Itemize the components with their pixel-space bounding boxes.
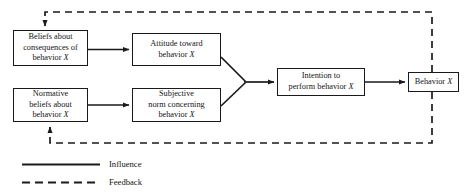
node-attitude-toward-behavior[interactable]: Attitude toward behavior X <box>132 33 221 66</box>
node-line-1: Attitude toward <box>150 39 202 50</box>
variable-x: X <box>447 77 452 86</box>
arrow-subjective-to-junction <box>221 83 246 107</box>
node-intention-to-perform[interactable]: Intention to perform behavior X <box>277 68 365 96</box>
node-line-1: Subjective <box>148 89 204 100</box>
node-line-2: behavior X <box>150 50 202 61</box>
node-line-2: norm concerning <box>148 100 204 111</box>
legend-item-feedback: Feedback <box>22 177 142 187</box>
legend-item-influence: Influence <box>22 159 141 169</box>
node-behavior[interactable]: Behavior X <box>408 72 459 92</box>
legend-label-influence: Influence <box>109 159 141 169</box>
feedback-top-path <box>45 12 432 72</box>
node-line-3: behavior X <box>148 110 204 121</box>
node-beliefs-about-consequences[interactable]: Beliefs about consequences of behavior X <box>13 30 88 66</box>
node-line-1: Beliefs about <box>23 32 78 43</box>
node-line-2: perform behavior X <box>289 82 354 93</box>
variable-x: X <box>190 110 195 119</box>
node-line-3: behavior X <box>29 110 72 121</box>
node-subjective-norm[interactable]: Subjective norm concerning behavior X <box>132 88 221 122</box>
variable-x: X <box>64 53 69 62</box>
node-line-2: beliefs about <box>29 100 72 111</box>
legend-solid-line-swatch <box>22 161 100 168</box>
node-line-2: consequences of <box>23 43 78 54</box>
diagram-canvas: Beliefs about consequences of behavior X… <box>0 0 469 195</box>
node-normative-beliefs[interactable]: Normative beliefs about behavior X <box>13 88 88 122</box>
variable-x: X <box>190 50 195 59</box>
feedback-bottom-path <box>50 92 432 143</box>
legend-dashed-line-swatch <box>22 179 100 186</box>
variable-x: X <box>64 110 69 119</box>
node-line-1: Normative <box>29 89 72 100</box>
variable-x: X <box>348 82 353 91</box>
legend-label-feedback: Feedback <box>109 177 142 187</box>
node-line-3: behavior X <box>23 53 78 64</box>
arrow-attitude-to-junction <box>221 57 246 82</box>
node-line-1: Behavior X <box>415 77 453 88</box>
node-line-1: Intention to <box>289 71 354 82</box>
